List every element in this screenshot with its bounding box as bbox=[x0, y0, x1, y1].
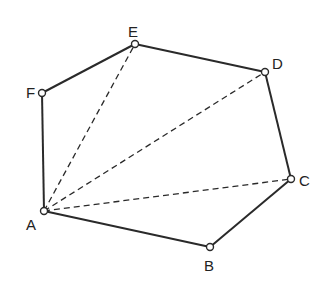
vertex-label-E: E bbox=[128, 24, 138, 39]
vertex-label-C: C bbox=[299, 173, 310, 188]
edge-AB bbox=[44, 211, 210, 247]
diagonal-AD bbox=[44, 72, 265, 211]
hexagon-diagram: ABCDEF bbox=[0, 0, 324, 282]
vertex-D bbox=[262, 69, 269, 76]
vertex-F bbox=[39, 90, 46, 97]
vertex-label-F: F bbox=[26, 85, 35, 100]
vertex-label-B: B bbox=[204, 258, 214, 273]
vertex-E bbox=[132, 41, 139, 48]
vertex-label-A: A bbox=[26, 217, 36, 232]
edge-BC bbox=[210, 179, 291, 247]
vertex-A bbox=[41, 208, 48, 215]
vertex-C bbox=[288, 176, 295, 183]
edge-CD bbox=[265, 72, 291, 179]
vertex-B bbox=[207, 244, 214, 251]
edge-FA bbox=[42, 93, 44, 211]
edge-DE bbox=[135, 44, 265, 72]
vertex-label-D: D bbox=[272, 56, 283, 71]
diagonal-AC bbox=[44, 179, 291, 211]
diagram-canvas bbox=[0, 0, 324, 282]
